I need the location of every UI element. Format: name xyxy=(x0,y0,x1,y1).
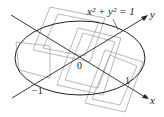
x-axis-arrow-icon xyxy=(142,94,149,99)
origin-label: 0 xyxy=(77,61,82,71)
equation-label: x² + y² = 1 xyxy=(87,6,135,17)
y-axis-label: y xyxy=(150,9,155,20)
neg-one-label: −1 xyxy=(32,86,43,96)
one-label: 1 xyxy=(125,76,130,86)
equation-leader-line xyxy=(113,19,118,30)
x-axis-label: x xyxy=(150,95,155,106)
diagram-canvas xyxy=(0,0,164,117)
y-axis-arrow-icon xyxy=(141,15,148,21)
